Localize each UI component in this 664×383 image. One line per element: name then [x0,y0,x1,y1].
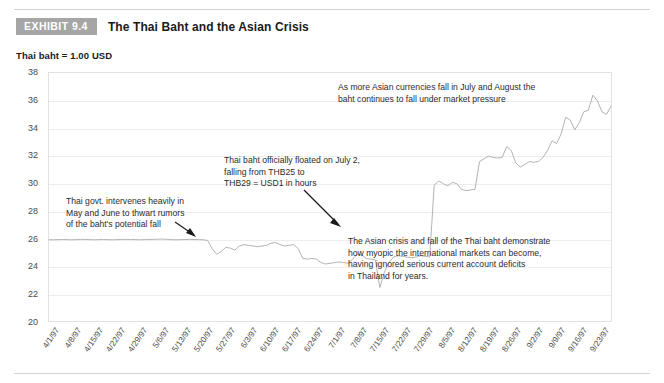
y-tick-label: 28 [28,206,38,216]
x-tick-label: 7/15/97 [368,326,391,354]
y-tick-label: 34 [28,123,38,133]
y-tick-label: 22 [28,289,38,299]
y-tick-label: 36 [28,95,38,105]
x-tick-label: 9/2/97 [525,326,545,350]
exhibit-header: EXHIBIT 9.4 The Thai Baht and the Asian … [16,18,309,35]
annotation-myopic-markets: The Asian crisis and fall of the Thai ba… [348,236,550,282]
annotation-baht-float: Thai baht officially floated on July 2, … [224,155,360,190]
x-tick-label: 7/8/97 [349,326,369,350]
x-tick-label: 9/23/97 [588,326,611,354]
x-tick-label: 5/20/97 [192,326,215,354]
exhibit-figure: EXHIBIT 9.4 The Thai Baht and the Asian … [0,0,664,383]
x-tick-label: 5/27/97 [214,326,237,354]
x-tick-label: 5/6/97 [151,326,171,350]
exhibit-badge: EXHIBIT 9.4 [16,18,97,35]
y-axis: 20222426283032343638 [0,72,44,322]
y-tick-label: 24 [28,261,38,271]
x-tick-label: 6/3/97 [239,326,259,350]
x-tick-label: 8/26/97 [500,326,523,354]
x-tick-label: 9/9/97 [547,326,567,350]
annotation-july-august-pressure: As more Asian currencies fall in July an… [338,82,535,105]
x-tick-label: 4/29/97 [126,326,149,354]
x-tick-label: 8/19/97 [478,326,501,354]
page-title: The Thai Baht and the Asian Crisis [108,20,309,34]
x-tick-label: 9/16/97 [566,326,589,354]
top-divider [14,9,650,10]
y-tick-label: 20 [28,317,38,327]
x-tick-label: 5/13/97 [170,326,193,354]
y-tick-label: 30 [28,178,38,188]
x-tick-label: 7/1/97 [327,326,347,350]
x-tick-label: 4/1/97 [41,326,61,350]
x-tick-label: 6/24/97 [302,326,325,354]
annotation-government-intervention: Thai govt. intervenes heavily in May and… [66,196,184,231]
x-tick-label: 4/22/97 [104,326,127,354]
x-axis: 4/1/974/8/974/15/974/22/974/29/975/6/975… [48,322,612,380]
x-tick-label: 8/5/97 [437,326,457,350]
x-tick-label: 7/29/97 [412,326,435,354]
x-tick-label: 6/17/97 [280,326,303,354]
y-axis-unit-label: Thai baht = 1.00 USD [16,50,112,61]
x-tick-label: 6/10/97 [258,326,281,354]
y-tick-label: 38 [28,67,38,77]
bottom-divider [14,373,650,374]
y-tick-label: 26 [28,234,38,244]
y-tick-label: 32 [28,150,38,160]
x-tick-label: 4/8/97 [63,326,83,350]
x-tick-label: 4/15/97 [82,326,105,354]
x-tick-label: 8/12/97 [456,326,479,354]
x-tick-label: 7/22/97 [390,326,413,354]
